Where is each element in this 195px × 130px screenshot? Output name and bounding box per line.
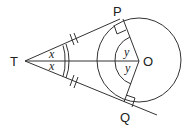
angle-label-y-bot: y: [124, 61, 131, 75]
angle-label-x-bot: x: [48, 59, 55, 73]
right-angle-P: [114, 25, 126, 34]
label-P: P: [113, 4, 122, 19]
label-T: T: [10, 54, 18, 69]
angle-arc-x-top-1: [66, 44, 69, 61]
angle-arc-x-bot-2: [63, 61, 65, 77]
geometry-diagram: T P O Q x x y y: [0, 0, 195, 130]
label-Q: Q: [120, 110, 130, 125]
diagram-svg: T P O Q x x y y: [0, 0, 195, 130]
angle-label-y-top: y: [123, 45, 130, 59]
angle-arc-x-top-2: [63, 46, 65, 62]
angle-arc-x-bot-1: [66, 61, 69, 78]
label-O: O: [143, 54, 153, 69]
tangent-TQ: [25, 61, 157, 115]
